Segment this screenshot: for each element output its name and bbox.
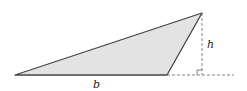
- triangle-diagram: h b: [0, 0, 247, 91]
- height-label: h: [207, 38, 214, 51]
- triangle: [15, 13, 202, 75]
- base-label: b: [93, 78, 100, 91]
- right-angle-marker: [197, 70, 202, 75]
